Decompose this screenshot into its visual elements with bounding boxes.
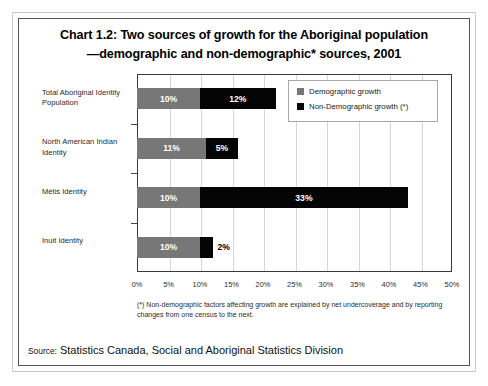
bar-value-label: 12%: [229, 94, 246, 104]
bar-value-label: 11%: [163, 143, 180, 153]
bar-value-label: 10%: [160, 94, 177, 104]
category-tickmark: [131, 124, 137, 125]
bar-segment-demographic: 10%: [137, 88, 200, 109]
category-label: Total Aboriginal Identity Population: [42, 88, 134, 109]
category-tickmark: [131, 223, 137, 224]
value-tick-label: 35%: [343, 280, 373, 289]
legend-swatch-demographic: [297, 88, 304, 95]
legend-swatch-non-demographic: [297, 103, 304, 110]
value-tick-label: 50%: [437, 280, 467, 289]
value-tick-label: 0%: [122, 280, 152, 289]
bar-row: 10%33%: [137, 187, 452, 208]
bar-value-label: 5%: [216, 143, 228, 153]
chart-title-line-1: Chart 1.2: Two sources of growth for the…: [60, 28, 428, 42]
value-tick-label: 30%: [311, 280, 341, 289]
bar-row: 11%5%: [137, 138, 452, 159]
bar-segment-demographic: 10%: [137, 237, 200, 258]
value-tick-label: 5%: [154, 280, 184, 289]
chart-source: Source: Statistics Canada, Social and Ab…: [28, 344, 343, 356]
bar-segment-non-demographic: 33%: [200, 187, 408, 208]
value-tick-label: 10%: [185, 280, 215, 289]
legend-item: Non-Demographic growth (*): [297, 102, 437, 111]
category-label: North American Indian Identity: [42, 137, 134, 158]
legend-label-non-demographic: Non-Demographic growth (*): [309, 102, 408, 111]
chart-figure: Chart 1.2: Two sources of growth for the…: [0, 0, 488, 386]
value-tick-label: 15%: [217, 280, 247, 289]
category-tickmark: [131, 173, 137, 174]
chart-title: Chart 1.2: Two sources of growth for the…: [26, 26, 462, 64]
value-tick-label: 25%: [280, 280, 310, 289]
bar-segment-demographic: 10%: [137, 187, 200, 208]
bar-value-label: 2%: [218, 237, 230, 258]
bar-segment-non-demographic: [200, 237, 213, 258]
bar-row: 10%2%: [137, 237, 452, 258]
legend-label-demographic: Demographic growth: [309, 87, 381, 96]
category-label: Inuit Identity: [42, 236, 134, 247]
chart-source-text: Statistics Canada, Social and Aboriginal…: [60, 344, 343, 356]
chart-legend: Demographic growth Non-Demographic growt…: [288, 80, 438, 122]
category-label: Métis Identity: [42, 187, 134, 198]
bar-value-label: 10%: [160, 242, 177, 252]
bar-segment-non-demographic: 12%: [200, 88, 276, 109]
bar-value-label: 33%: [295, 193, 312, 203]
value-tick-label: 20%: [248, 280, 278, 289]
chart-title-line-2: —demographic and non-demographic* source…: [26, 45, 462, 64]
bar-segment-demographic: 11%: [137, 138, 206, 159]
value-tick-label: 45%: [406, 280, 436, 289]
legend-item: Demographic growth: [297, 87, 437, 96]
bar-value-label: 10%: [160, 193, 177, 203]
bar-segment-non-demographic: 5%: [206, 138, 238, 159]
value-tick-label: 40%: [374, 280, 404, 289]
chart-source-prefix: Source:: [28, 346, 57, 356]
chart-footnote: (*) Non-demographic factors affecting gr…: [137, 300, 447, 320]
